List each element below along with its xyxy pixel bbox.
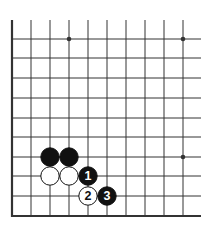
white-stone-2: 2 [79, 187, 97, 205]
move-number-label: 3 [104, 189, 111, 203]
move-number-label: 1 [85, 169, 92, 183]
star-point-icon [181, 37, 186, 42]
move-number-label: 2 [85, 189, 92, 203]
black-stone [60, 148, 78, 166]
black-stone-3: 3 [98, 187, 116, 205]
white-stone-icon [60, 167, 78, 185]
star-point-icon [67, 37, 72, 42]
black-stone [41, 148, 59, 166]
go-board: 123 [0, 0, 214, 233]
white-stone-icon [41, 167, 59, 185]
black-stone-1: 1 [79, 167, 97, 185]
white-stone [60, 167, 78, 185]
black-stone-icon [41, 148, 59, 166]
white-stone [41, 167, 59, 185]
black-stone-icon [60, 148, 78, 166]
star-point-icon [181, 155, 186, 160]
